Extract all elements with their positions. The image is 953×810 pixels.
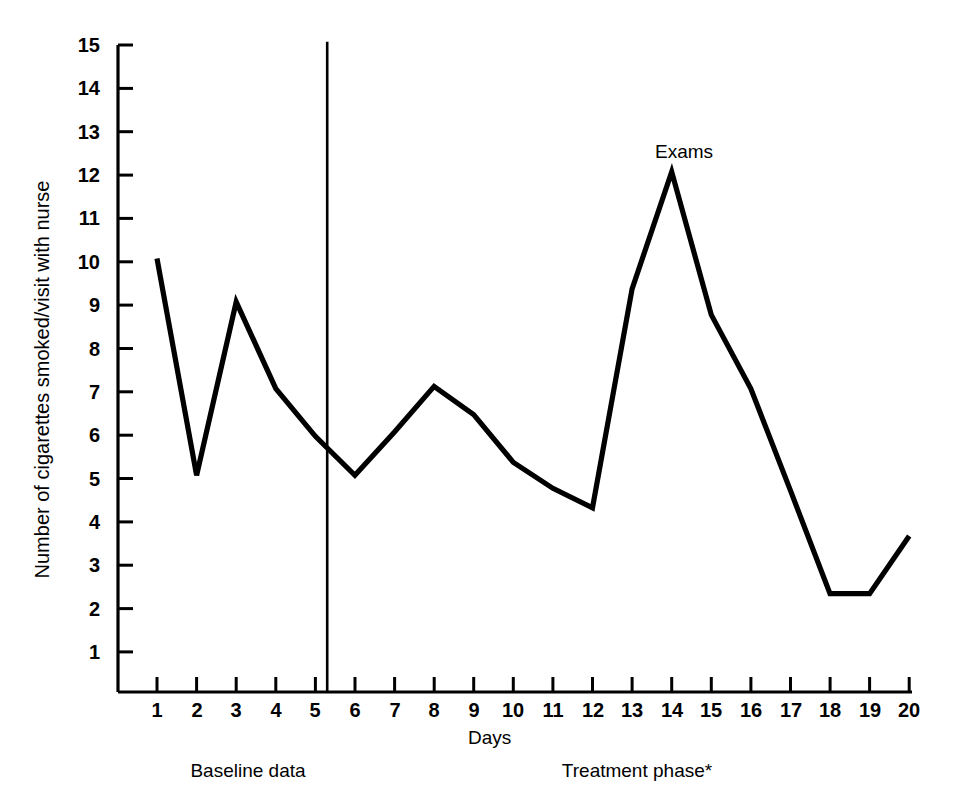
x-axis-ticks <box>157 677 909 692</box>
x-tick-label-2: 2 <box>191 700 202 720</box>
y-tick-label-8: 8 <box>58 339 100 359</box>
y-tick-label-9: 9 <box>58 295 100 315</box>
x-tick-label-6: 6 <box>349 700 360 720</box>
x-axis-title: Days <box>468 727 511 749</box>
x-tick-label-4: 4 <box>270 700 281 720</box>
y-tick-label-7: 7 <box>58 382 100 402</box>
y-axis-ticks <box>118 45 133 652</box>
y-tick-label-1: 1 <box>58 642 100 662</box>
x-tick-label-9: 9 <box>468 700 479 720</box>
treatment-phase-label: Treatment phase* <box>562 760 712 782</box>
x-tick-label-15: 15 <box>700 700 722 720</box>
baseline-phase-label: Baseline data <box>190 760 305 782</box>
y-tick-label-4: 4 <box>58 512 100 532</box>
x-tick-label-12: 12 <box>582 700 604 720</box>
x-tick-label-7: 7 <box>389 700 400 720</box>
y-tick-label-15: 15 <box>58 35 100 55</box>
x-tick-label-14: 14 <box>661 700 683 720</box>
line-chart-plot <box>0 0 953 810</box>
x-tick-label-16: 16 <box>740 700 762 720</box>
y-tick-label-2: 2 <box>58 599 100 619</box>
y-tick-label-5: 5 <box>58 469 100 489</box>
x-tick-label-11: 11 <box>542 700 563 720</box>
y-axis-title: Number of cigarettes smoked/visit with n… <box>31 170 54 590</box>
y-tick-label-14: 14 <box>58 78 100 98</box>
x-tick-label-5: 5 <box>309 700 320 720</box>
y-tick-label-12: 12 <box>58 165 100 185</box>
x-tick-label-10: 10 <box>502 700 524 720</box>
data-series-line <box>157 172 909 594</box>
x-tick-label-20: 20 <box>898 700 920 720</box>
exams-annotation: Exams <box>655 141 713 163</box>
x-tick-label-18: 18 <box>819 700 841 720</box>
chart-figure: 15 14 13 12 11 10 9 8 7 6 5 4 3 2 1 1 2 … <box>0 0 953 810</box>
x-tick-label-1: 1 <box>151 700 162 720</box>
y-tick-label-13: 13 <box>58 122 100 142</box>
y-tick-label-11: 11 <box>58 208 100 228</box>
x-tick-label-13: 13 <box>621 700 643 720</box>
x-tick-label-8: 8 <box>428 700 439 720</box>
x-tick-label-19: 19 <box>859 700 881 720</box>
y-tick-label-6: 6 <box>58 425 100 445</box>
x-tick-label-3: 3 <box>230 700 241 720</box>
y-tick-label-10: 10 <box>58 252 100 272</box>
x-tick-label-17: 17 <box>780 700 802 720</box>
y-tick-label-3: 3 <box>58 555 100 575</box>
